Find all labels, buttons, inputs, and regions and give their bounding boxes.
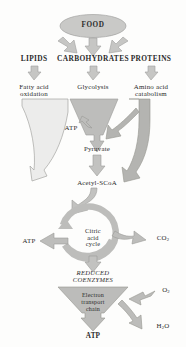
citric-acid-cycle-label: Citric acid cycle: [85, 228, 101, 248]
electron-transport-chain-line1: Electron: [82, 292, 104, 298]
amino-acid-catabolism-label: Amino acid catabolism: [134, 83, 168, 98]
carbohydrates-to-pathway-arrow: [87, 66, 100, 80]
fatty-acid-oxidation-line2: oxidation: [20, 90, 48, 97]
water-output-arrow: [118, 300, 142, 329]
oxygen-input-arrow: [129, 291, 155, 305]
citric-acid-cycle-line3: cycle: [86, 240, 100, 247]
acetyl-scoa-label: Acetyl-SCoA: [77, 179, 117, 186]
cycle-atp-label: ATP: [23, 237, 36, 244]
h2o-tail: O: [164, 322, 169, 329]
reduced-coenzymes-line2: COENZYMES: [73, 276, 113, 283]
proteins-to-pathway-arrow: [145, 66, 158, 80]
co2-subscript: 2: [167, 237, 170, 242]
co2-symbol: CO: [157, 234, 167, 241]
glycolysis-atp-label: ATP: [65, 124, 78, 131]
pyruvate-label: Pyruvate: [84, 145, 110, 152]
o2-subscript: 2: [167, 289, 170, 294]
metabolism-diagram: FOOD LIPIDS CARBOHYDRATES PROTEINS Fatty…: [0, 0, 186, 347]
water-label: H2O: [157, 322, 170, 331]
fatty-acid-oxidation-line1: Fatty acid: [19, 83, 48, 90]
lipids-label: LIPIDS: [21, 55, 48, 63]
carbon-dioxide-label: CO2: [157, 234, 170, 243]
proteins-label: PROTEINS: [131, 55, 172, 63]
electron-transport-chain-line2: transport: [81, 299, 104, 305]
oxygen-label: O2: [162, 286, 170, 295]
food-label: FOOD: [82, 22, 105, 30]
fatty-acid-oxidation-funnel-arrow: [22, 99, 68, 181]
food-to-lipids-arrow: [58, 37, 77, 53]
electron-transport-chain-line3: chain: [86, 306, 100, 312]
final-atp-label: ATP: [86, 333, 100, 341]
lipids-to-pathway-arrow: [28, 66, 41, 80]
reduced-coenzymes-label: REDUCED COENZYMES: [73, 270, 113, 284]
amino-acid-catabolism-line2: catabolism: [135, 90, 167, 97]
electron-transport-chain-label: Electron transport chain: [81, 292, 104, 312]
carbohydrates-label: CARBOHYDRATES: [57, 55, 129, 63]
pyruvate-to-acetyl-arrow: [89, 155, 105, 176]
glycolysis-label: Glycolysis: [77, 83, 108, 90]
food-to-proteins-arrow: [109, 37, 128, 53]
amino-acid-catabolism-line1: Amino acid: [134, 83, 168, 90]
fatty-acid-oxidation-label: Fatty acid oxidation: [19, 83, 48, 98]
